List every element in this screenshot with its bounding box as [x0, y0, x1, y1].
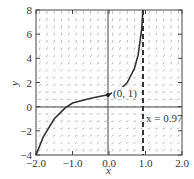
y-tick-label: 8: [27, 4, 33, 16]
y-tick-label: 6: [27, 28, 33, 40]
x-tick-label: 2.0: [175, 157, 189, 169]
ticks: [36, 10, 182, 155]
x-tick-label: −1.0: [63, 157, 83, 169]
point-label: (0, 1): [113, 87, 137, 100]
y-axis-label: y: [8, 81, 20, 87]
chart: (0, 1) x = 0.97 −2.0−1.00.01.02.0 −4−202…: [0, 0, 194, 179]
initial-point: [106, 93, 110, 97]
plot-frame: [36, 10, 182, 155]
y-tick-label: −4: [20, 149, 32, 161]
x-tick-label: 1.0: [139, 157, 153, 169]
y-tick-label: 4: [27, 52, 33, 64]
x-axis-label: x: [105, 164, 111, 176]
slope-field: [38, 11, 180, 151]
asymptote-label: x = 0.97: [146, 112, 183, 124]
y-tick-label: 2: [27, 77, 33, 89]
y-tick-label: 0: [27, 101, 33, 113]
solution-curve: [36, 10, 143, 155]
y-tick-label: −2: [20, 125, 32, 137]
